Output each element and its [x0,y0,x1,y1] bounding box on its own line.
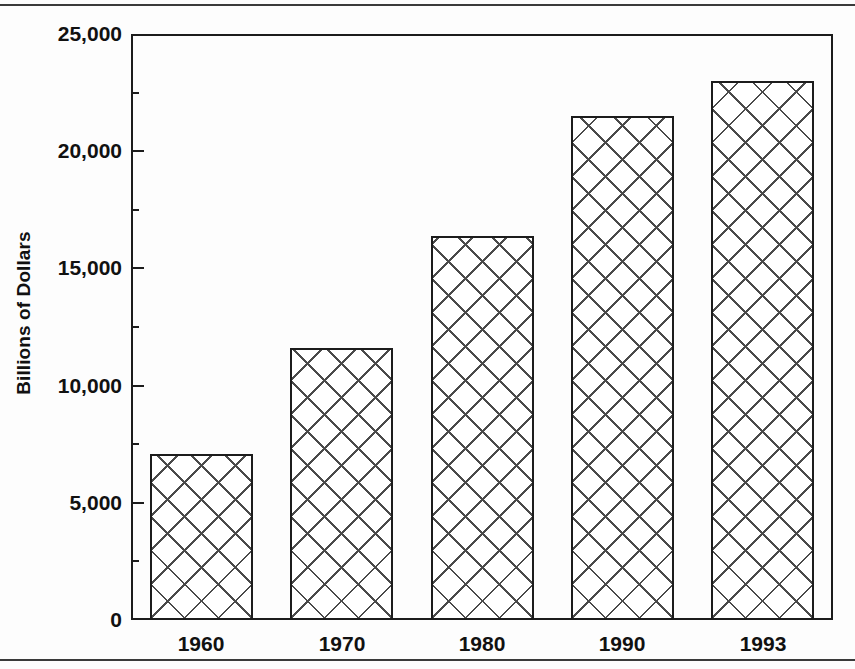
y-tick-label: 25,000 [12,22,122,46]
x-tick-label: 1980 [412,632,552,656]
y-tick-label: 20,000 [12,139,122,163]
y-tick-label: 15,000 [12,256,122,280]
bottom-divider-rule [0,659,855,661]
y-axis-tick-labels: 05,00010,00015,00020,00025,000 [0,0,122,669]
top-divider-rule [0,4,855,6]
bar-1960 [150,454,253,620]
bar-1980 [431,236,534,620]
y-tick-label: 0 [12,608,122,632]
x-tick-label: 1970 [272,632,412,656]
bar-1993 [711,81,814,620]
x-tick-label: 1960 [131,632,271,656]
y-tick-label: 5,000 [12,491,122,515]
bar-1990 [571,116,674,620]
bar-1970 [290,348,393,620]
x-tick-label: 1993 [693,632,833,656]
x-tick-label: 1990 [552,632,692,656]
y-tick-label: 10,000 [12,374,122,398]
chart-figure: Billions of Dollars 05,00010,00015,00020… [0,0,855,669]
